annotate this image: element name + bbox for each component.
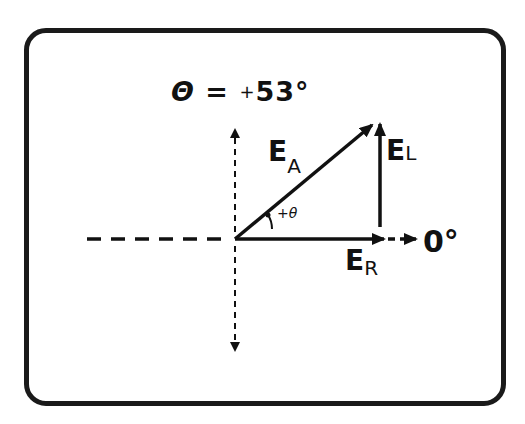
phase-angle-title: Θ = +53° <box>171 78 310 105</box>
angle-value: 53° <box>255 76 309 107</box>
phasor-diagram <box>0 0 525 424</box>
label-ea: EA <box>268 138 301 166</box>
label-er: ER <box>345 247 378 275</box>
reference-angle-label: 0° <box>423 227 459 257</box>
vector-ea-arrow <box>235 125 372 239</box>
sign: + <box>239 81 255 102</box>
angle-arc-icon <box>266 213 273 230</box>
theta-symbol: Θ <box>171 76 195 107</box>
angle-label: +θ <box>277 206 297 220</box>
equals-sign: = <box>205 76 229 107</box>
label-el: EL <box>386 137 416 165</box>
